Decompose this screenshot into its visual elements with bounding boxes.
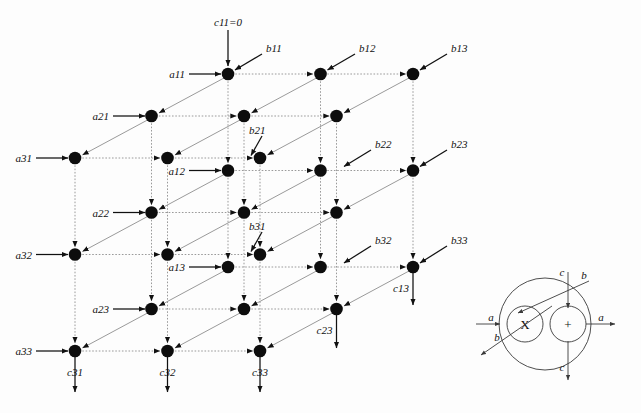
label-b33: b33 xyxy=(451,234,468,246)
label-a12: a12 xyxy=(169,165,186,177)
processing-cell[interactable] xyxy=(330,110,343,123)
processing-cell[interactable] xyxy=(161,345,174,358)
label-b23: b23 xyxy=(451,138,468,150)
processing-cell[interactable] xyxy=(407,164,420,177)
processing-cell[interactable] xyxy=(254,248,267,261)
label-c32: c32 xyxy=(160,366,176,378)
label-b32: b32 xyxy=(375,234,392,246)
processing-cell[interactable] xyxy=(330,303,343,316)
legend-adder-symbol: + xyxy=(564,317,571,332)
processing-cell[interactable] xyxy=(407,261,420,274)
label-b21: b21 xyxy=(249,124,266,136)
processing-cell[interactable] xyxy=(330,206,343,219)
legend-label-a-in: a xyxy=(488,311,494,323)
label-b11: b11 xyxy=(266,42,282,54)
label-c31: c31 xyxy=(67,366,83,378)
label-c23: c23 xyxy=(317,324,333,336)
legend-cell-boundary xyxy=(499,278,591,370)
processing-cell[interactable] xyxy=(314,261,327,274)
processing-cell[interactable] xyxy=(161,248,174,261)
processing-cell[interactable] xyxy=(145,110,158,123)
label-b22: b22 xyxy=(375,138,392,150)
label-a21: a21 xyxy=(93,110,110,122)
legend-label-a-out: a xyxy=(598,311,604,323)
processing-cell[interactable] xyxy=(145,206,158,219)
processing-cell[interactable] xyxy=(314,164,327,177)
label-b13: b13 xyxy=(451,42,468,54)
label-a31: a31 xyxy=(16,152,33,164)
label-a32: a32 xyxy=(16,249,33,261)
processing-cell[interactable] xyxy=(222,261,235,274)
label-a11: a11 xyxy=(169,68,185,80)
processing-cell[interactable] xyxy=(222,164,235,177)
processing-cell[interactable] xyxy=(314,68,327,81)
processing-cell[interactable] xyxy=(69,152,82,165)
label-a13: a13 xyxy=(169,261,186,273)
label-a23: a23 xyxy=(93,303,110,315)
processing-cell[interactable] xyxy=(407,68,420,81)
processing-cell[interactable] xyxy=(238,303,251,316)
label-b12: b12 xyxy=(359,42,376,54)
processing-cell[interactable] xyxy=(161,152,174,165)
processing-cell[interactable] xyxy=(222,68,235,81)
processing-cell[interactable] xyxy=(238,110,251,123)
figure-canvas: c11=0 a11 a21 a31 a12 a22 a32 a13 a23 a3… xyxy=(0,0,641,413)
label-c11-init: c11=0 xyxy=(214,16,242,28)
label-c13: c13 xyxy=(393,282,409,294)
label-b31: b31 xyxy=(249,220,266,232)
label-c33: c33 xyxy=(252,366,268,378)
legend-label-b-in: b xyxy=(581,269,587,281)
processing-cell[interactable] xyxy=(69,345,82,358)
processing-cell[interactable] xyxy=(145,303,158,316)
cell-legend-group: X + a a b b c c xyxy=(476,266,615,380)
processing-cell[interactable] xyxy=(69,248,82,261)
processing-cell[interactable] xyxy=(254,345,267,358)
labels-group: c11=0 a11 a21 a31 a12 a22 a32 a13 a23 a3… xyxy=(16,16,469,378)
legend-label-c-out: c xyxy=(560,361,565,373)
legend-label-b-out: b xyxy=(494,331,500,343)
label-a22: a22 xyxy=(93,207,110,219)
processing-cell[interactable] xyxy=(254,152,267,165)
systolic-array-svg: c11=0 a11 a21 a31 a12 a22 a32 a13 a23 a3… xyxy=(0,0,641,413)
legend-label-c-in: c xyxy=(560,266,565,278)
label-a33: a33 xyxy=(16,345,33,357)
processing-cell[interactable] xyxy=(238,206,251,219)
